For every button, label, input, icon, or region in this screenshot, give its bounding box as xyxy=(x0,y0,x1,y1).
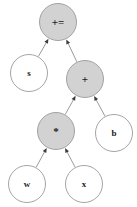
nodes-layer: +=s+*bwx xyxy=(9,4,133,203)
node-label: b xyxy=(111,128,116,138)
ast-graph-canvas: +=s+*bwx xyxy=(0,0,137,207)
node-label: s xyxy=(27,68,31,78)
tree-node-plus[interactable]: + xyxy=(67,61,104,98)
tree-edge xyxy=(65,99,74,115)
tree-node-b[interactable]: b xyxy=(96,115,133,152)
ast-graph-svg: +=s+*bwx xyxy=(0,0,137,207)
tree-edge xyxy=(38,42,46,57)
node-label: += xyxy=(52,16,65,28)
tree-edge xyxy=(68,42,77,61)
tree-edge xyxy=(96,99,105,116)
edges-layer xyxy=(36,39,105,167)
tree-node-w[interactable]: w xyxy=(9,166,46,203)
tree-edge xyxy=(67,151,76,167)
node-label: x xyxy=(82,179,87,189)
tree-node-s[interactable]: s xyxy=(11,55,48,92)
tree-node-x[interactable]: x xyxy=(66,166,103,203)
node-label: w xyxy=(24,179,31,189)
tree-edge xyxy=(36,151,45,168)
tree-node-plus-equals[interactable]: += xyxy=(40,4,77,41)
node-label: * xyxy=(53,125,59,137)
tree-node-times[interactable]: * xyxy=(38,113,75,150)
node-label: + xyxy=(82,73,88,85)
